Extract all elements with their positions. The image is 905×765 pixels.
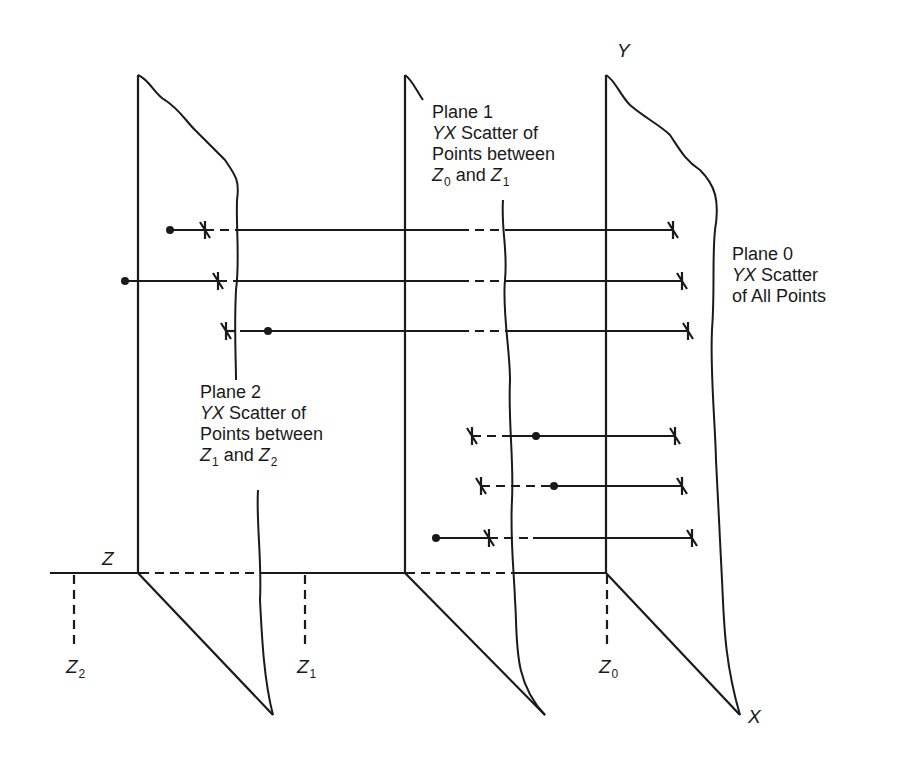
x-axis-label: X (748, 706, 761, 728)
z0-marker: Z0 (599, 656, 618, 681)
plane-1-subtitle: YX Scatter of (432, 123, 555, 144)
z1-marker: Z1 (297, 656, 316, 681)
plane-2-title: Plane 2 (200, 382, 323, 403)
z-marker-drops (74, 575, 607, 650)
plane-2-subtitle: YX Scatter of (200, 403, 323, 424)
plane-2-label: Plane 2 YX Scatter of Points between Z1 … (200, 382, 323, 473)
z-axis-label: Z (102, 548, 114, 570)
z2-marker: Z2 (66, 656, 85, 681)
plane-1-line3: Points between (432, 144, 555, 165)
plane-1-range: Z0 and Z1 (432, 165, 555, 193)
plane-0 (606, 75, 740, 715)
plane-1-title: Plane 1 (432, 102, 555, 123)
y-axis-label: Y (617, 40, 630, 62)
plane-2-range: Z1 and Z2 (200, 445, 323, 473)
plane-0-subtitle: YX Scatter (732, 265, 826, 286)
plane-2-line3: Points between (200, 424, 323, 445)
plane-0-line3: of All Points (732, 286, 826, 307)
plane-0-label: Plane 0 YX Scatter of All Points (732, 244, 826, 307)
plane-1-label: Plane 1 YX Scatter of Points between Z0 … (432, 102, 555, 193)
plane-0-title: Plane 0 (732, 244, 826, 265)
